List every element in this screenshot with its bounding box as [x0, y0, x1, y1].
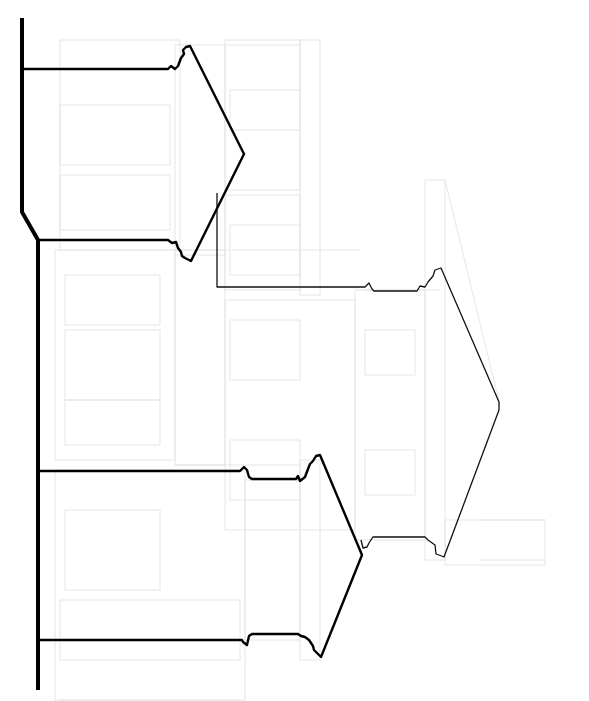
ghost-detail: [65, 510, 160, 590]
ghost-detail: [225, 195, 300, 290]
ghost-detail: [300, 460, 320, 660]
upper-pediment-outline: [22, 46, 244, 261]
ghost-detail: [230, 90, 300, 130]
ghost-detail: [425, 180, 445, 560]
faint-building-detail-lines: [55, 40, 545, 700]
ground-line: [22, 18, 38, 690]
ghost-detail: [60, 105, 170, 165]
ghost-detail: [245, 480, 300, 640]
ghost-detail: [65, 275, 160, 325]
elevation-drawing: [0, 0, 589, 701]
ghost-detail: [355, 290, 425, 540]
ghost-detail: [60, 175, 170, 230]
ghost-detail: [60, 40, 180, 250]
ghost-detail: [55, 250, 175, 460]
middle-pediment-outline: [217, 193, 499, 557]
ghost-line: [445, 180, 500, 405]
ghost-detail: [445, 520, 545, 565]
ghost-detail: [365, 450, 415, 495]
ghost-detail: [300, 40, 320, 295]
drawing-canvas: [0, 0, 589, 701]
ghost-detail: [65, 330, 160, 400]
ghost-detail: [365, 330, 415, 375]
lower-pediment-outline: [38, 455, 362, 657]
ghost-detail: [65, 400, 160, 445]
ghost-detail: [230, 320, 300, 380]
ghost-detail: [55, 470, 245, 700]
ghost-detail: [60, 600, 240, 660]
